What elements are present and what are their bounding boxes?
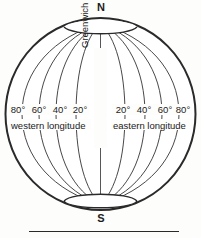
bottom-rule [29, 231, 179, 232]
greenwich-meridian-label: Greenwich Meridian [79, 0, 90, 48]
western-longitude-label: western longitude [11, 120, 85, 131]
greenwich-label-mask [94, 48, 107, 148]
north-pole-label: N [91, 1, 111, 13]
degree-label-west-20: 20° [67, 104, 93, 115]
degree-label-east-80: 80° [170, 104, 196, 115]
south-pole-label: S [91, 212, 111, 224]
globe-longitude-diagram: N S 80° 60° 40° 20° 20° 40° 60° 80° west… [0, 0, 201, 238]
eastern-longitude-label: eastern longitude [113, 120, 186, 131]
